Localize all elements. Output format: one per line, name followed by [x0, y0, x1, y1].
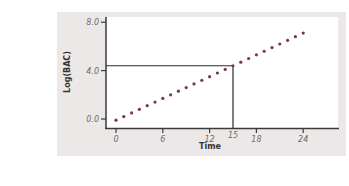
- data-point: [239, 61, 242, 64]
- data-point: [122, 115, 125, 118]
- data-point: [231, 64, 234, 67]
- data-point: [263, 50, 266, 53]
- data-point: [169, 93, 172, 96]
- data-point: [153, 100, 156, 103]
- data-point: [224, 68, 227, 71]
- data-point: [286, 39, 289, 42]
- x-tick-label: 0: [113, 135, 118, 144]
- data-point: [208, 75, 211, 78]
- data-point: [185, 86, 188, 89]
- data-point: [192, 82, 195, 85]
- chart: 0.04.08.0 0612151824 Time Log(BAC): [0, 0, 349, 186]
- x-tick-label: 6: [160, 135, 165, 144]
- y-tick-label: 0.0: [86, 115, 99, 124]
- data-point: [294, 35, 297, 38]
- data-point: [255, 53, 258, 56]
- y-tick-label: 4.0: [86, 67, 99, 76]
- y-axis-title: Log(BAC): [63, 51, 72, 93]
- data-point: [138, 108, 141, 111]
- data-point: [270, 46, 273, 49]
- data-point: [302, 31, 305, 34]
- x-tick-label: 18: [251, 135, 261, 144]
- x-tick-label: 15: [228, 131, 238, 140]
- data-point: [130, 111, 133, 114]
- data-point: [216, 71, 219, 74]
- data-point: [114, 119, 117, 122]
- data-point: [200, 79, 203, 82]
- data-point: [161, 97, 164, 100]
- y-tick-label: 8.0: [86, 18, 99, 27]
- x-axis-title: Time: [199, 142, 222, 151]
- data-point: [146, 104, 149, 107]
- y-axis-ticks: 0.04.08.0: [86, 18, 106, 124]
- data-point: [278, 42, 281, 45]
- data-point: [247, 57, 250, 60]
- data-point: [177, 90, 180, 93]
- x-tick-label: 24: [298, 135, 308, 144]
